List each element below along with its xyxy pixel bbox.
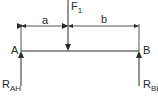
dim-arrow-b-left-icon	[68, 24, 73, 28]
dim-arrow-a-right-icon	[63, 24, 68, 28]
dim-arrow-b-right-icon	[134, 24, 139, 28]
dimension-label-a: a	[42, 15, 48, 26]
load-label-main: F	[71, 0, 78, 12]
support-label-a: A	[11, 45, 18, 56]
reaction-label-b-subscript: BH	[151, 84, 158, 93]
reaction-arrow-a-icon	[18, 51, 24, 58]
reaction-label-b-main: R	[143, 78, 151, 90]
reaction-arrow-b-icon	[136, 51, 142, 58]
reaction-label-a-main: R	[2, 78, 10, 90]
reaction-label-a: RAH	[2, 79, 21, 93]
load-arrow-f1-icon	[65, 44, 71, 51]
dimension-label-b: b	[101, 14, 107, 25]
load-label: F1	[71, 1, 82, 15]
reaction-label-b: RBH	[143, 79, 158, 93]
support-label-b: B	[143, 45, 150, 56]
reaction-label-a-subscript: AH	[10, 84, 21, 93]
load-label-subscript: 1	[78, 6, 82, 15]
dim-arrow-a-left-icon	[21, 24, 26, 28]
